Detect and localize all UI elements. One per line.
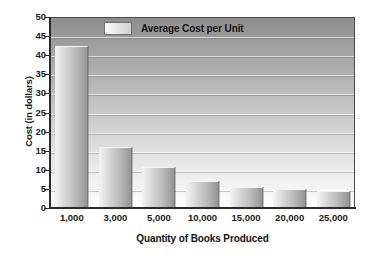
x-axis-line xyxy=(49,207,356,209)
y-axis-tick-label: 35 xyxy=(22,70,46,80)
y-axis-tick-label: 5 xyxy=(22,184,46,194)
x-axis-title: Quantity of Books Produced xyxy=(50,233,355,244)
y-axis-tick-mark xyxy=(44,170,50,171)
x-axis-tick-label: 20,000 xyxy=(275,212,304,223)
y-axis-tick-mark xyxy=(44,93,50,94)
bar-chart-figure: Cost (in dollars) 05101520253035404550 A… xyxy=(0,0,367,255)
legend: Average Cost per Unit xyxy=(104,22,244,35)
bar xyxy=(273,189,306,208)
legend-swatch-average-cost-per-unit xyxy=(104,22,132,35)
y-axis-tick-mark xyxy=(44,36,50,37)
plot-area xyxy=(50,17,355,208)
bar xyxy=(99,147,132,208)
y-axis-tick-label: 20 xyxy=(22,127,46,137)
bars-layer xyxy=(50,18,354,208)
bar xyxy=(142,167,175,208)
bar xyxy=(317,191,350,208)
y-axis-tick-labels: 05101520253035404550 xyxy=(22,17,46,208)
x-axis-tick-label: 3,000 xyxy=(103,212,127,223)
y-axis-tick-mark xyxy=(44,208,50,209)
y-axis-tick-mark xyxy=(44,189,50,190)
x-axis-tick-labels: 1,0003,0005,00010,00015,00020,00025,000 xyxy=(50,212,355,228)
bar xyxy=(55,46,88,208)
x-axis-tick-label: 1,000 xyxy=(60,212,84,223)
y-axis-tick-label: 15 xyxy=(22,146,46,156)
legend-label-average-cost-per-unit: Average Cost per Unit xyxy=(141,23,244,34)
bar xyxy=(230,187,263,208)
y-axis-tick-mark xyxy=(44,132,50,133)
y-axis-tick-label: 45 xyxy=(22,31,46,41)
y-axis-tick-label: 10 xyxy=(22,165,46,175)
y-axis-tick-label: 50 xyxy=(22,12,46,22)
x-axis-tick-label: 15,000 xyxy=(232,212,261,223)
y-axis-tick-mark xyxy=(44,17,50,18)
bar xyxy=(186,181,219,208)
x-axis-tick-label: 10,000 xyxy=(188,212,217,223)
y-axis-tick-mark xyxy=(44,151,50,152)
y-axis-tick-mark xyxy=(44,113,50,114)
x-axis-tick-label: 5,000 xyxy=(147,212,171,223)
y-axis-tick-label: 30 xyxy=(22,89,46,99)
y-axis-tick-label: 40 xyxy=(22,50,46,60)
y-axis-tick-mark xyxy=(44,74,50,75)
y-axis-tick-label: 0 xyxy=(22,203,46,213)
x-axis-tick-label: 25,000 xyxy=(319,212,348,223)
y-axis-tick-label: 25 xyxy=(22,108,46,118)
y-axis-tick-mark xyxy=(44,55,50,56)
